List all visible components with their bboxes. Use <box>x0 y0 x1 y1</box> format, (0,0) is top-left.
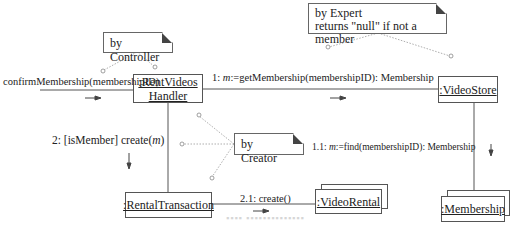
message-1-1-find: 1.1: m:=find(membershipID): Membership <box>312 141 475 153</box>
object-label: :RentalTransaction <box>123 198 214 212</box>
arrow-down-icon <box>127 153 131 169</box>
anchor-circle-icons <box>101 45 453 180</box>
message-2-1-create: 2.1: create() <box>240 193 291 205</box>
note-text-line2: returns "null" if not a member <box>315 20 432 46</box>
note-text: by Controller <box>110 36 159 64</box>
message-confirm-membership: confirmMembership(membershipID) <box>3 76 159 88</box>
object-rentaltransaction[interactable]: :RentalTransaction <box>125 192 212 218</box>
object-videorental[interactable]: :VideoRental <box>315 189 382 214</box>
note-by-controller: by Controller <box>103 32 173 53</box>
object-label-line2: Handler <box>149 89 188 103</box>
object-label: :Membership <box>441 202 505 216</box>
arrow-down-icon <box>489 144 493 156</box>
object-label: :VideoRental <box>317 195 380 209</box>
arrow-right-icon <box>330 96 346 100</box>
note-by-creator: by Creator <box>234 133 304 155</box>
note-text: by Creator <box>241 137 277 165</box>
object-label: :VideoStore <box>439 83 496 97</box>
message-1-getmembership: 1: m:=getMembership(membershipID): Membe… <box>212 72 434 84</box>
arrow-right-icon <box>85 96 101 100</box>
object-videostore[interactable]: :VideoStore <box>438 76 498 103</box>
object-membership[interactable]: :Membership <box>441 196 505 222</box>
figure-caption: ▪▪▪▪ ▪▪▪▪▪▪▪▪▪▪▪▪▪▪ <box>226 213 305 223</box>
note-by-expert: by Expert returns "null" if not a member <box>308 3 447 34</box>
message-2-create: 2: [isMember] create(m) <box>52 134 164 146</box>
